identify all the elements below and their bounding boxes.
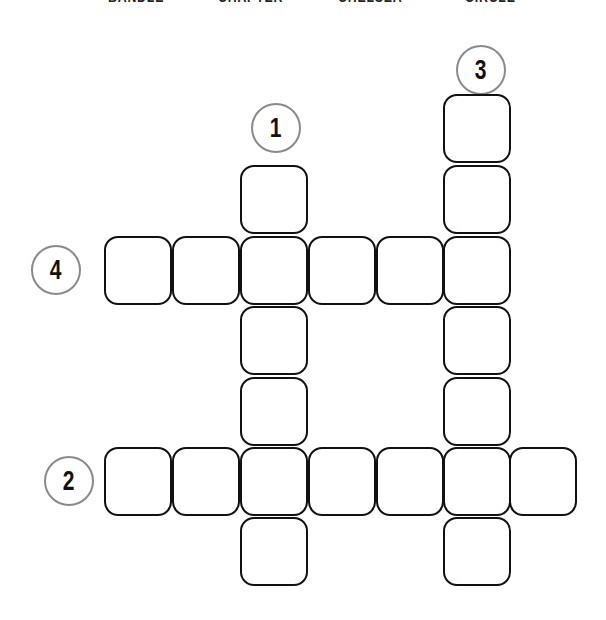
cell-letter <box>242 519 306 584</box>
clue-marker-4: 4 <box>31 245 81 295</box>
crossword-cell[interactable] <box>308 447 376 516</box>
word-bank-item: CIRCLE <box>465 0 516 5</box>
cell-letter <box>445 96 509 161</box>
cell-letter <box>174 238 238 303</box>
cell-letter <box>106 449 170 514</box>
crossword-cell[interactable] <box>240 377 308 446</box>
cell-letter <box>174 449 238 514</box>
crossword-cell[interactable] <box>443 165 511 234</box>
crossword-cell[interactable] <box>172 447 240 516</box>
crossword-cell[interactable] <box>443 306 511 375</box>
crossword-cell[interactable] <box>240 165 308 234</box>
crossword-cell[interactable] <box>443 447 511 516</box>
crossword-cell[interactable] <box>509 447 577 516</box>
cell-letter <box>445 519 509 584</box>
crossword-cell[interactable] <box>443 517 511 586</box>
clue-marker-3: 3 <box>456 45 506 95</box>
crossword-cell[interactable] <box>240 447 308 516</box>
cell-letter <box>445 449 509 514</box>
clue-marker-2: 2 <box>44 456 94 506</box>
cell-letter <box>310 449 374 514</box>
crossword-puzzle: BANDLE CHAPTER CHELSEA CIRCLE 1 3 4 2 <box>0 0 606 620</box>
crossword-cell[interactable] <box>443 94 511 163</box>
cell-letter <box>445 379 509 444</box>
crossword-cell[interactable] <box>240 306 308 375</box>
word-bank: BANDLE CHAPTER CHELSEA CIRCLE <box>0 0 606 4</box>
crossword-cell[interactable] <box>443 377 511 446</box>
cell-letter <box>445 167 509 232</box>
clue-number: 3 <box>475 57 487 84</box>
word-bank-item: CHAPTER <box>218 0 283 5</box>
cell-letter <box>511 449 575 514</box>
crossword-cell[interactable] <box>104 447 172 516</box>
clue-number: 2 <box>63 468 75 495</box>
cell-letter <box>445 308 509 373</box>
clue-marker-1: 1 <box>251 103 301 153</box>
crossword-cell[interactable] <box>308 236 376 305</box>
crossword-cell[interactable] <box>104 236 172 305</box>
crossword-cell[interactable] <box>376 447 444 516</box>
crossword-cell[interactable] <box>240 236 308 305</box>
crossword-cell[interactable] <box>376 236 444 305</box>
word-bank-item: CHELSEA <box>338 0 403 5</box>
cell-letter <box>106 238 170 303</box>
cell-letter <box>242 167 306 232</box>
cell-letter <box>378 238 442 303</box>
cell-letter <box>242 449 306 514</box>
crossword-cell[interactable] <box>172 236 240 305</box>
crossword-cell[interactable] <box>443 236 511 305</box>
word-bank-item: BANDLE <box>108 0 164 5</box>
clue-number: 1 <box>270 115 282 142</box>
cell-letter <box>242 238 306 303</box>
cell-letter <box>310 238 374 303</box>
clue-number: 4 <box>50 257 62 284</box>
cell-letter <box>242 308 306 373</box>
cell-letter <box>378 449 442 514</box>
crossword-cell[interactable] <box>240 517 308 586</box>
cell-letter <box>445 238 509 303</box>
cell-letter <box>242 379 306 444</box>
